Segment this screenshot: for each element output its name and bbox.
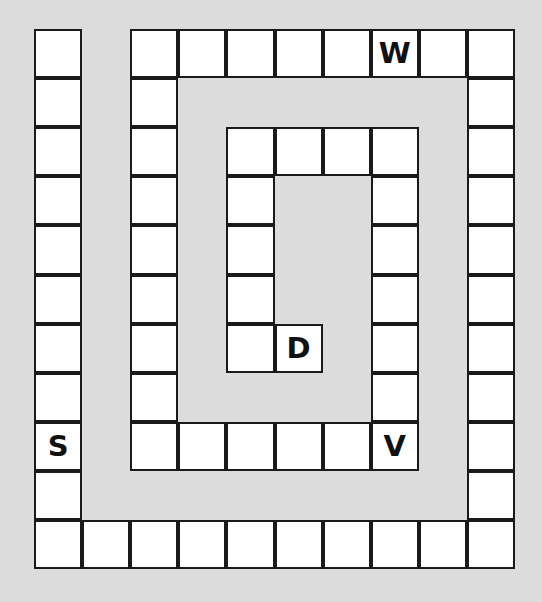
- board-square[interactable]: [130, 225, 178, 274]
- board-square[interactable]: [467, 78, 515, 127]
- board-square[interactable]: [130, 422, 178, 471]
- board-square[interactable]: [371, 520, 419, 569]
- board-square[interactable]: [226, 275, 274, 324]
- board-square[interactable]: [467, 127, 515, 176]
- board-square[interactable]: [178, 29, 226, 78]
- board-square[interactable]: [419, 520, 467, 569]
- board-square[interactable]: [467, 324, 515, 373]
- board-square[interactable]: [82, 520, 130, 569]
- board-square[interactable]: [34, 471, 82, 520]
- board-square[interactable]: [467, 29, 515, 78]
- board-square[interactable]: [467, 422, 515, 471]
- board-square[interactable]: [226, 127, 274, 176]
- board-square[interactable]: [34, 127, 82, 176]
- board-square[interactable]: [130, 373, 178, 422]
- board-square[interactable]: [226, 324, 274, 373]
- board-square[interactable]: [178, 520, 226, 569]
- board-square[interactable]: [226, 422, 274, 471]
- board-square[interactable]: [371, 225, 419, 274]
- board-square[interactable]: [130, 127, 178, 176]
- spiral-game-board: SWVD: [0, 0, 542, 602]
- board-square[interactable]: [34, 275, 82, 324]
- board-square[interactable]: [34, 225, 82, 274]
- board-square[interactable]: [467, 520, 515, 569]
- board-square[interactable]: [226, 176, 274, 225]
- board-square[interactable]: [34, 373, 82, 422]
- board-square[interactable]: [275, 29, 323, 78]
- board-square[interactable]: [467, 275, 515, 324]
- board-square[interactable]: [130, 324, 178, 373]
- board-square[interactable]: [467, 471, 515, 520]
- board-square[interactable]: [275, 127, 323, 176]
- board-square[interactable]: [371, 324, 419, 373]
- board-square[interactable]: [178, 422, 226, 471]
- board-square[interactable]: [323, 127, 371, 176]
- board-square[interactable]: [130, 29, 178, 78]
- board-square[interactable]: [226, 225, 274, 274]
- board-square[interactable]: [34, 520, 82, 569]
- board-square[interactable]: [323, 422, 371, 471]
- board-square[interactable]: [34, 324, 82, 373]
- board-square[interactable]: [130, 78, 178, 127]
- board-square[interactable]: [34, 29, 82, 78]
- board-square-d[interactable]: D: [275, 324, 323, 373]
- board-square[interactable]: [323, 520, 371, 569]
- board-square[interactable]: [130, 275, 178, 324]
- board-square[interactable]: [323, 29, 371, 78]
- board-square[interactable]: [467, 225, 515, 274]
- board-square[interactable]: [34, 78, 82, 127]
- board-square[interactable]: [467, 373, 515, 422]
- board-square[interactable]: [130, 176, 178, 225]
- board-square[interactable]: [371, 176, 419, 225]
- board-square[interactable]: [130, 520, 178, 569]
- board-square[interactable]: [34, 176, 82, 225]
- board-square[interactable]: [226, 29, 274, 78]
- board-square[interactable]: [226, 520, 274, 569]
- board-square-v[interactable]: V: [371, 422, 419, 471]
- board-square[interactable]: [275, 422, 323, 471]
- board-square[interactable]: [419, 29, 467, 78]
- board-square[interactable]: [371, 373, 419, 422]
- board-square-w[interactable]: W: [371, 29, 419, 78]
- board-square-s[interactable]: S: [34, 422, 82, 471]
- board-square[interactable]: [371, 275, 419, 324]
- board-square[interactable]: [467, 176, 515, 225]
- board-square[interactable]: [275, 520, 323, 569]
- board-square[interactable]: [371, 127, 419, 176]
